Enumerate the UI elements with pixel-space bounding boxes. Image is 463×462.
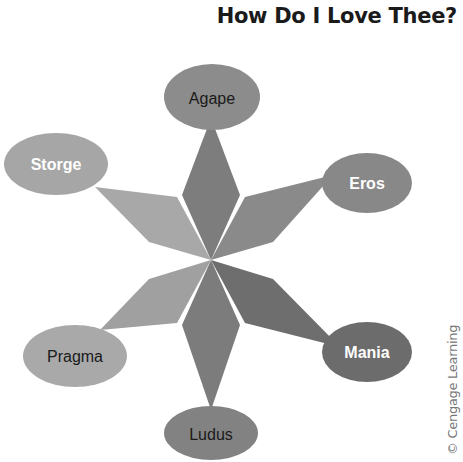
ludus-label: Ludus — [189, 426, 233, 443]
mania-label: Mania — [344, 344, 389, 361]
node-mania: Mania — [322, 322, 412, 382]
copyright-credit: © Cengage Learning — [445, 325, 460, 455]
node-pragma: Pragma — [23, 325, 127, 387]
eros-label: Eros — [349, 175, 385, 192]
node-agape: Agape — [164, 64, 260, 130]
node-eros: Eros — [322, 153, 412, 213]
pragma-label: Pragma — [47, 348, 103, 365]
node-storge: Storge — [4, 133, 108, 195]
agape-label: Agape — [189, 90, 235, 107]
love-styles-star-diagram: Agape Eros Mania Ludus Pragma Storge — [0, 0, 463, 462]
node-ludus: Ludus — [164, 406, 258, 460]
storge-label: Storge — [31, 156, 82, 173]
